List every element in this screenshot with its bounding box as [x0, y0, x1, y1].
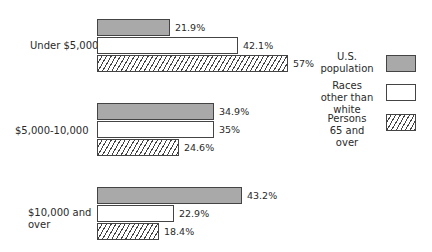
value-label: 24.6% — [184, 142, 214, 154]
legend-label-persons-65: Persons 65 and over — [312, 113, 382, 149]
bar-races-other — [97, 121, 214, 138]
legend-swatch-white — [386, 84, 416, 101]
value-label: 42.1% — [243, 40, 273, 52]
bar-us-population — [97, 103, 214, 120]
value-label: 18.4% — [164, 226, 194, 238]
bar-persons-65 — [97, 223, 159, 240]
legend-line: 65 and — [312, 125, 382, 137]
bar-persons-65 — [97, 139, 179, 156]
bar-us-population — [97, 19, 170, 36]
bar-races-other — [97, 205, 174, 222]
legend-line: U.S. — [312, 51, 382, 63]
value-label: 43.2% — [247, 190, 277, 202]
bar-races-other — [97, 37, 238, 54]
value-label: 57% — [293, 58, 314, 70]
legend-swatch-gray — [386, 55, 416, 72]
legend-swatch-hatched — [386, 114, 416, 131]
value-label: 34.9% — [219, 106, 249, 118]
value-label: 22.9% — [179, 208, 209, 220]
category-label-5000-10000: $5,000-10,000 — [15, 125, 89, 137]
legend-label-us-population: U.S. population — [312, 51, 382, 75]
legend-line: Races — [312, 80, 382, 92]
legend-label-races-other: Races other than white — [312, 80, 382, 116]
bar-persons-65 — [97, 55, 288, 72]
legend-line: other than — [312, 92, 382, 104]
category-label-line: over — [28, 219, 91, 231]
legend-line: Persons — [312, 113, 382, 125]
bar-us-population — [97, 187, 242, 204]
category-label-under-5000: Under $5,000 — [30, 40, 98, 52]
legend-line: over — [312, 137, 382, 149]
legend-line: population — [312, 63, 382, 75]
category-label-line: $10,000 and — [28, 207, 91, 219]
value-label: 21.9% — [175, 22, 205, 34]
category-label-10000-over: $10,000 and over — [28, 207, 91, 231]
value-label: 35% — [219, 124, 240, 136]
